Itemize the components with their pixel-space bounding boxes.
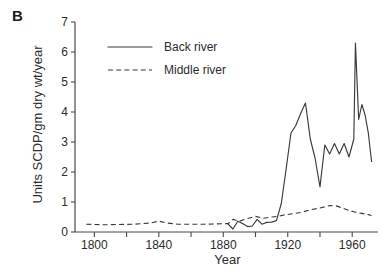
y-tick-label: 1 <box>61 195 68 209</box>
y-tick-label: 3 <box>61 135 68 149</box>
y-tick-label: 0 <box>61 225 68 239</box>
y-tick-label: 6 <box>61 45 68 59</box>
chart-legend: Back riverMiddle river <box>108 40 226 77</box>
series-line-back-river <box>228 43 371 229</box>
x-tick-label: 1800 <box>81 238 108 252</box>
x-axis-ticks: 18001840188019201960 <box>81 232 366 252</box>
y-axis-ticks: 01234567 <box>61 15 75 239</box>
data-series <box>86 43 371 229</box>
chart-plot-area: 01234567 18001840188019201960 Back river… <box>0 0 388 280</box>
legend-label-back-river: Back river <box>164 40 217 54</box>
y-tick-label: 5 <box>61 75 68 89</box>
y-tick-label: 2 <box>61 165 68 179</box>
figure-panel-b: B Units SCDP/gm dry wt/year Year 0123456… <box>0 0 388 280</box>
series-line-middle-river <box>86 206 371 225</box>
y-tick-label: 7 <box>61 15 68 29</box>
x-tick-label: 1920 <box>274 238 301 252</box>
legend-label-middle-river: Middle river <box>164 63 226 77</box>
y-tick-label: 4 <box>61 105 68 119</box>
x-tick-label: 1840 <box>145 238 172 252</box>
x-tick-label: 1960 <box>339 238 366 252</box>
axes: 01234567 18001840188019201960 <box>61 15 378 252</box>
x-tick-label: 1880 <box>210 238 237 252</box>
